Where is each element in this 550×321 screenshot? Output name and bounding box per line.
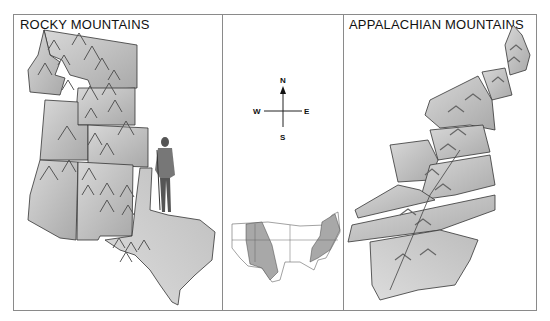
us-inset-map xyxy=(232,212,340,282)
compass-west: W xyxy=(253,107,261,116)
compass-south: S xyxy=(280,133,286,142)
map-illustrations: N S E W xyxy=(0,0,550,321)
appalachian-states xyxy=(348,25,530,300)
rocky-mountain-states xyxy=(28,30,215,305)
compass-rose: N S E W xyxy=(253,76,310,142)
frontiersman-figure xyxy=(155,137,175,212)
compass-north: N xyxy=(280,76,286,85)
compass-east: E xyxy=(304,107,310,116)
